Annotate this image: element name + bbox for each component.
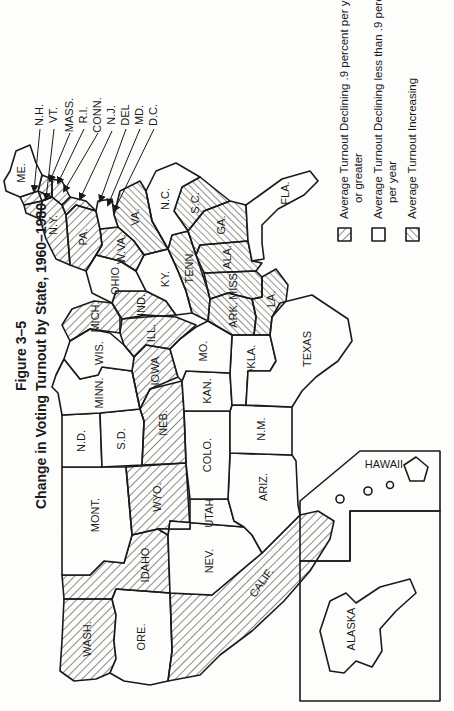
svg-text:S.D.: S.D.	[115, 428, 127, 449]
svg-text:ARK.: ARK.	[227, 302, 239, 328]
svg-text:Average Turnout Increasing: Average Turnout Increasing	[406, 78, 418, 219]
svg-text:N.J.: N.J.	[105, 105, 117, 125]
svg-text:D.C.: D.C.	[147, 104, 159, 126]
turnout-map: Figure 3–5 Change in Voting Turnout by S…	[0, 0, 454, 711]
figure-title: Change in Voting Turnout by State, 1960–…	[33, 203, 49, 509]
svg-text:MINN.: MINN.	[93, 377, 105, 408]
state-ore: ORE.	[110, 589, 172, 685]
svg-text:S.C.: S.C.	[189, 192, 201, 213]
svg-text:MASS.: MASS.	[63, 98, 75, 132]
svg-text:Average Turnout Declining .9 p: Average Turnout Declining .9 percent per…	[338, 0, 350, 219]
svg-text:ILL.: ILL.	[145, 324, 157, 342]
svg-text:VA.: VA.	[129, 209, 141, 226]
svg-text:ME.: ME.	[15, 163, 27, 183]
svg-text:N.C.: N.C.	[159, 188, 171, 210]
legend-item-increasing: Average Turnout Increasing	[406, 78, 419, 241]
state-kan: KAN.	[182, 371, 232, 411]
svg-text:WASH.: WASH.	[81, 621, 93, 657]
svg-text:HAWAII: HAWAII	[365, 458, 403, 470]
svg-text:WYO.: WYO.	[151, 482, 163, 511]
svg-text:ARIZ.: ARIZ.	[257, 473, 269, 501]
svg-text:ALASKA: ALASKA	[345, 607, 357, 650]
svg-text:MICH.: MICH.	[89, 301, 101, 332]
svg-text:N.H.: N.H.	[33, 104, 45, 126]
state-miss: MISS.	[204, 270, 262, 300]
svg-text:per year: per year	[386, 161, 398, 203]
state-wash: WASH.	[60, 599, 116, 681]
svg-text:TENN.: TENN.	[183, 251, 195, 284]
state-sd: S.D.	[100, 409, 144, 467]
state-colo: COLO.	[184, 411, 230, 499]
svg-text:R.I.: R.I.	[77, 106, 89, 123]
svg-text:N.Y.: N.Y.	[47, 215, 59, 235]
svg-text:W.VA.: W.VA.	[115, 234, 127, 264]
svg-text:IOWA: IOWA	[149, 356, 161, 386]
svg-text:VT.: VT.	[47, 107, 59, 123]
svg-text:COLO.: COLO.	[201, 438, 213, 472]
legend: Average Turnout Declining .9 percent per…	[338, 0, 419, 241]
svg-text:MO.: MO.	[197, 341, 209, 362]
svg-text:ALA.: ALA.	[221, 245, 233, 269]
svg-text:N.M.: N.M.	[255, 417, 267, 440]
legend-item-declining-high: Average Turnout Declining .9 percent per…	[338, 0, 364, 241]
svg-text:MD.: MD.	[133, 105, 145, 125]
svg-text:OHIO: OHIO	[109, 267, 121, 296]
svg-text:KAN.: KAN.	[201, 378, 213, 404]
svg-text:FLA.: FLA.	[279, 181, 291, 204]
svg-text:PA.: PA.	[77, 229, 89, 246]
svg-text:WIS.: WIS.	[93, 341, 105, 365]
svg-text:MONT.: MONT.	[89, 498, 101, 532]
svg-text:Average Turnout Declining less: Average Turnout Declining less than .9 p…	[372, 0, 384, 219]
svg-text:UTAH: UTAH	[203, 498, 215, 527]
svg-text:or greater: or greater	[352, 153, 364, 203]
state-nd: N.D.	[62, 413, 102, 467]
state-mont: MONT.	[62, 467, 132, 575]
svg-text:ORE.: ORE.	[135, 624, 147, 651]
state-nm: N.M.	[230, 405, 292, 455]
svg-text:CONN.: CONN.	[91, 97, 103, 132]
svg-text:TEXAS: TEXAS	[301, 331, 313, 367]
svg-text:LA.: LA.	[265, 291, 277, 308]
svg-text:NEB.: NEB.	[157, 410, 169, 436]
svg-text:IND.: IND.	[135, 294, 147, 316]
svg-text:IDAHO: IDAHO	[139, 547, 151, 582]
svg-text:KY.: KY.	[159, 271, 171, 287]
svg-text:NEV.: NEV.	[203, 549, 215, 574]
legend-item-declining-low: Average Turnout Declining less than .9 p…	[372, 0, 398, 241]
svg-text:MISS.: MISS.	[227, 270, 239, 300]
state-fla: FLA.	[246, 171, 318, 261]
svg-text:GA.: GA.	[215, 216, 227, 235]
svg-text:N.D.: N.D.	[75, 430, 87, 452]
figure-number: Figure 3–5	[13, 321, 29, 391]
rotated-figure: Figure 3–5 Change in Voting Turnout by S…	[0, 0, 454, 711]
svg-text:DEL: DEL	[119, 104, 131, 125]
